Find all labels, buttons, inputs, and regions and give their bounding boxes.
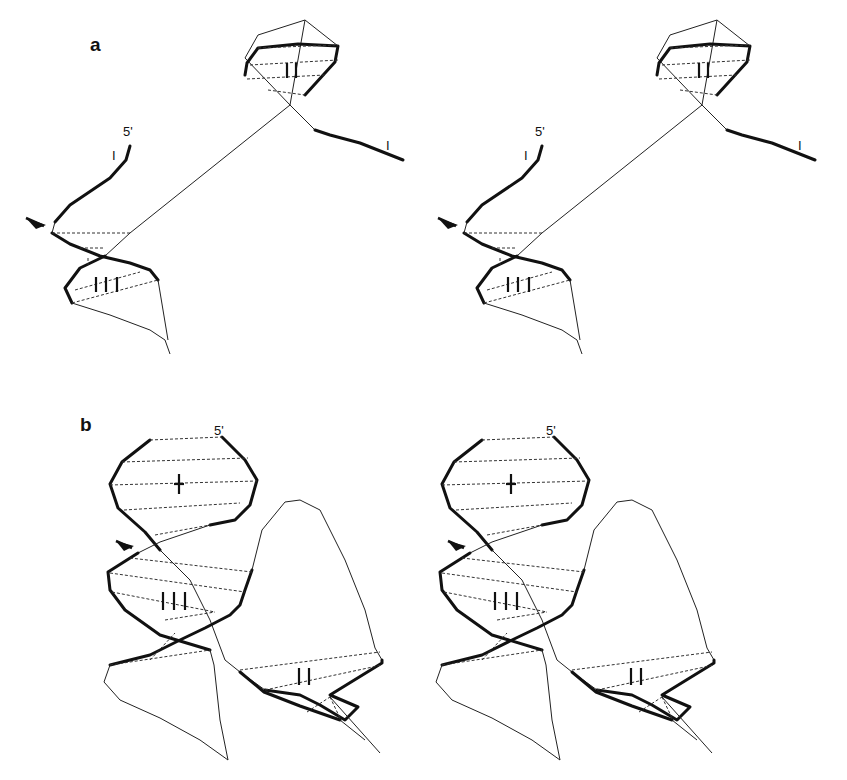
panel-a-left-view: 5' I I — [26, 20, 403, 354]
stem-label-III — [163, 592, 185, 610]
stem-label-II — [699, 63, 708, 78]
stem-label-II — [287, 63, 296, 78]
five-prime-label: 5' — [535, 124, 545, 139]
panel-b-left-view: 5' — [104, 423, 382, 760]
five-prime-label: 5' — [123, 124, 133, 139]
stem-label-I — [174, 474, 184, 494]
panel-b-right-view: 5' — [436, 423, 714, 760]
panel-label-a: a — [90, 34, 101, 55]
strand-marker: I — [798, 138, 802, 153]
panel-a-right-view: 5' I I — [438, 20, 815, 354]
strand-marker: I — [524, 148, 528, 163]
stem-label-I — [506, 474, 516, 494]
five-prime-label: 5' — [214, 423, 224, 438]
stereo-diagram: a 5' I I 5' I I — [0, 0, 847, 780]
stem-label-III — [495, 592, 517, 610]
strand-marker: I — [112, 148, 116, 163]
five-prime-label: 5' — [546, 423, 556, 438]
panel-label-b: b — [80, 414, 92, 435]
strand-marker: I — [386, 138, 390, 153]
